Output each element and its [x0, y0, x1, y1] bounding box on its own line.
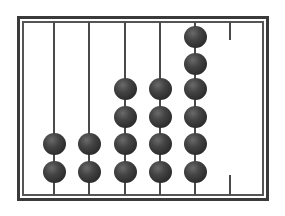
- bead: [114, 161, 137, 183]
- bead: [184, 106, 207, 128]
- bead: [149, 161, 172, 183]
- bead: [149, 133, 172, 155]
- bead: [78, 161, 101, 183]
- bead: [149, 106, 172, 128]
- bead: [184, 161, 207, 183]
- bead: [78, 133, 101, 155]
- bead: [184, 78, 207, 100]
- bead: [43, 133, 66, 155]
- bead: [43, 161, 66, 183]
- bead: [114, 78, 137, 100]
- bead: [184, 133, 207, 155]
- rod-stub-bottom: [229, 175, 231, 195]
- bead: [184, 53, 207, 75]
- bead: [114, 106, 137, 128]
- bead: [114, 133, 137, 155]
- bead: [149, 78, 172, 100]
- bead: [184, 26, 207, 48]
- rod-stub-top: [229, 22, 231, 40]
